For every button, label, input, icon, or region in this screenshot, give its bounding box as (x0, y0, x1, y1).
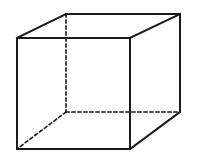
cube-edge (17, 14, 66, 38)
hidden-edges (17, 14, 180, 149)
cube-edge (130, 112, 180, 149)
cube-edge (130, 14, 180, 38)
visible-edges (17, 14, 180, 149)
cube-diagram (0, 0, 197, 162)
hidden-cube-edge (17, 112, 66, 149)
